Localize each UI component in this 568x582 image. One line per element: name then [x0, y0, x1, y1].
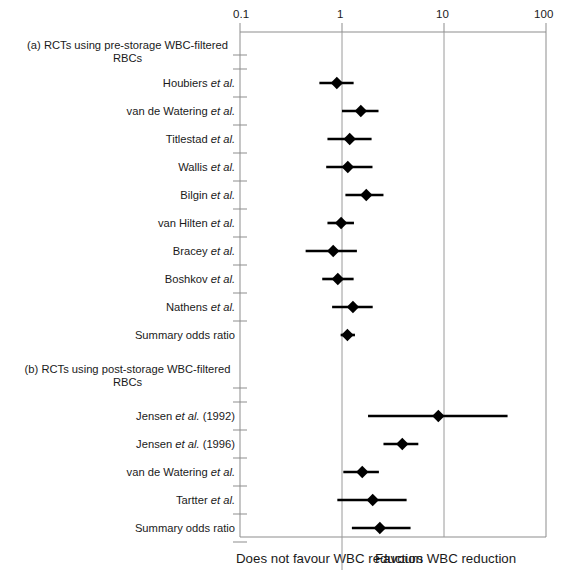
point-estimate-marker — [396, 438, 408, 450]
point-estimate-marker — [335, 217, 347, 229]
point-estimate-marker — [360, 189, 372, 201]
point-estimate-marker — [355, 105, 367, 117]
point-estimate-marker — [347, 301, 359, 313]
point-estimate-marker — [367, 494, 379, 506]
point-estimate-marker — [342, 161, 354, 173]
point-estimate-marker — [356, 466, 368, 478]
point-estimate-marker — [331, 77, 343, 89]
forest-plot-figure: 0.1 1 10 100 (a) RCTs using pre-storage … — [0, 0, 568, 582]
point-estimate-marker — [341, 329, 353, 341]
point-estimate-marker — [344, 133, 356, 145]
point-estimate-marker — [432, 410, 444, 422]
point-estimate-marker — [374, 522, 386, 534]
plot-canvas — [0, 0, 568, 582]
point-estimate-marker — [327, 245, 339, 257]
